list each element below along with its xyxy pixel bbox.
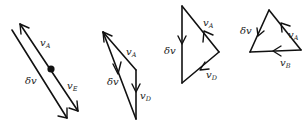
label-v-a: vA [288,30,298,42]
label-v-a: vA [203,18,213,30]
label-delta-v: δv [25,76,37,86]
label-v-a: vA [40,38,50,50]
v-a-vector [182,6,219,52]
v-b-vector [250,50,301,52]
label-delta-v: δv [240,26,252,36]
arrowhead-icon [203,31,213,42]
label-v-d: vD [140,91,151,103]
label-v-d: vD [206,70,217,82]
vector-diagram-svg [0,0,304,132]
label-delta-v: δv [107,77,119,87]
point-marker [47,65,54,72]
label-delta-v: δv [164,46,176,56]
label-v-b: vB [280,58,290,70]
label-v-e: vE [67,81,77,93]
label-v-a: vA [126,47,136,59]
vector-diagram-canvas: vA δv vE vA δv vD vA δv vD vA δv vB [0,0,304,132]
delta-v-vector [250,10,269,52]
